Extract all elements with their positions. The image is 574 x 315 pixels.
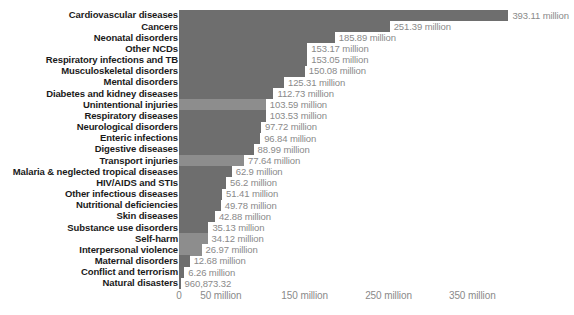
x-axis-tick-label: 0	[176, 290, 181, 301]
x-axis-tick-label: 250 million	[365, 290, 412, 301]
bar-row: Natural disasters960,873.32	[0, 277, 574, 291]
x-axis-tick-label: 50 million	[200, 290, 241, 301]
x-axis-tick-label: 150 million	[281, 290, 328, 301]
plot-area: Cardiovascular diseases393.11 millionCan…	[0, 0, 574, 288]
category-label: Natural disasters	[0, 277, 178, 289]
x-axis: 050 million150 million250 million350 mil…	[0, 290, 574, 312]
bar-value-label: 960,873.32	[181, 278, 232, 290]
bar-chart: Cardiovascular diseases393.11 millionCan…	[0, 0, 574, 315]
x-axis-tick-label: 350 million	[449, 290, 496, 301]
